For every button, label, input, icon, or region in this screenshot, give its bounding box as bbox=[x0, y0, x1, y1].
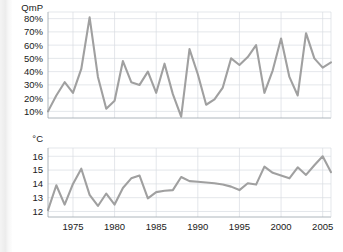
y-tick-label: 12 bbox=[32, 206, 43, 217]
y-axis-unit-label: °C bbox=[32, 133, 43, 144]
x-tick-label: 1995 bbox=[229, 221, 250, 232]
y-tick-label: 16 bbox=[32, 151, 43, 162]
x-tick-label: 1990 bbox=[187, 221, 208, 232]
x-tick-label: 1985 bbox=[146, 221, 167, 232]
x-tick-label: 2000 bbox=[270, 221, 291, 232]
y-tick-label: 30% bbox=[24, 79, 44, 90]
chart-temperature: 12131415161975198019851990199520002005°C bbox=[0, 120, 343, 252]
plot-background bbox=[48, 148, 331, 217]
y-tick-label: 13 bbox=[32, 192, 43, 203]
y-tick-label: 10% bbox=[24, 106, 44, 117]
y-tick-label: 20% bbox=[24, 93, 44, 104]
y-tick-label: 15 bbox=[32, 164, 43, 175]
y-tick-label: 14 bbox=[32, 178, 43, 189]
y-tick-label: 70% bbox=[24, 26, 44, 37]
y-tick-label: 80% bbox=[24, 13, 44, 24]
x-tick-label: 1975 bbox=[62, 221, 83, 232]
figure-canvas: 10%20%30%40%50%60%70%80%QmP 121314151619… bbox=[0, 0, 343, 252]
chart-precipitation-quotient: 10%20%30%40%50%60%70%80%QmP bbox=[0, 0, 343, 126]
x-tick-label: 1980 bbox=[104, 221, 125, 232]
y-tick-label: 60% bbox=[24, 40, 44, 51]
y-tick-label: 50% bbox=[24, 53, 44, 64]
chart-temperature-svg: 12131415161975198019851990199520002005°C bbox=[0, 120, 343, 252]
x-tick-label: 2005 bbox=[312, 221, 333, 232]
chart-precipitation-svg: 10%20%30%40%50%60%70%80%QmP bbox=[0, 0, 343, 126]
y-axis-unit-label: QmP bbox=[21, 2, 43, 13]
y-tick-label: 40% bbox=[24, 66, 44, 77]
